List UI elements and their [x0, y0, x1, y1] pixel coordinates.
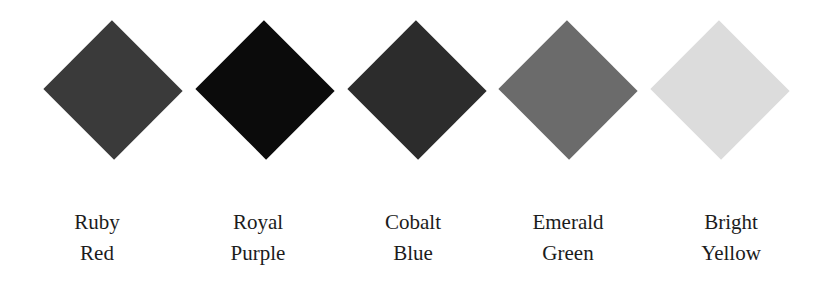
label-line1: Bright	[666, 207, 796, 238]
swatch-ruby-red	[43, 20, 182, 159]
label-line2: Red	[32, 238, 162, 269]
label-cobalt-blue: Cobalt Blue	[348, 207, 478, 269]
label-line1: Royal	[193, 207, 323, 238]
label-ruby-red: Ruby Red	[32, 207, 162, 269]
label-bright-yellow: Bright Yellow	[666, 207, 796, 269]
swatch-emerald-green	[498, 20, 637, 159]
label-line2: Green	[503, 238, 633, 269]
label-line2: Yellow	[666, 238, 796, 269]
label-emerald-green: Emerald Green	[503, 207, 633, 269]
label-line2: Purple	[193, 238, 323, 269]
label-line1: Cobalt	[348, 207, 478, 238]
label-line1: Ruby	[32, 207, 162, 238]
swatch-royal-purple	[195, 20, 334, 159]
label-royal-purple: Royal Purple	[193, 207, 323, 269]
swatch-cobalt-blue	[347, 20, 486, 159]
label-line2: Blue	[348, 238, 478, 269]
label-line1: Emerald	[503, 207, 633, 238]
swatch-bright-yellow	[650, 20, 789, 159]
